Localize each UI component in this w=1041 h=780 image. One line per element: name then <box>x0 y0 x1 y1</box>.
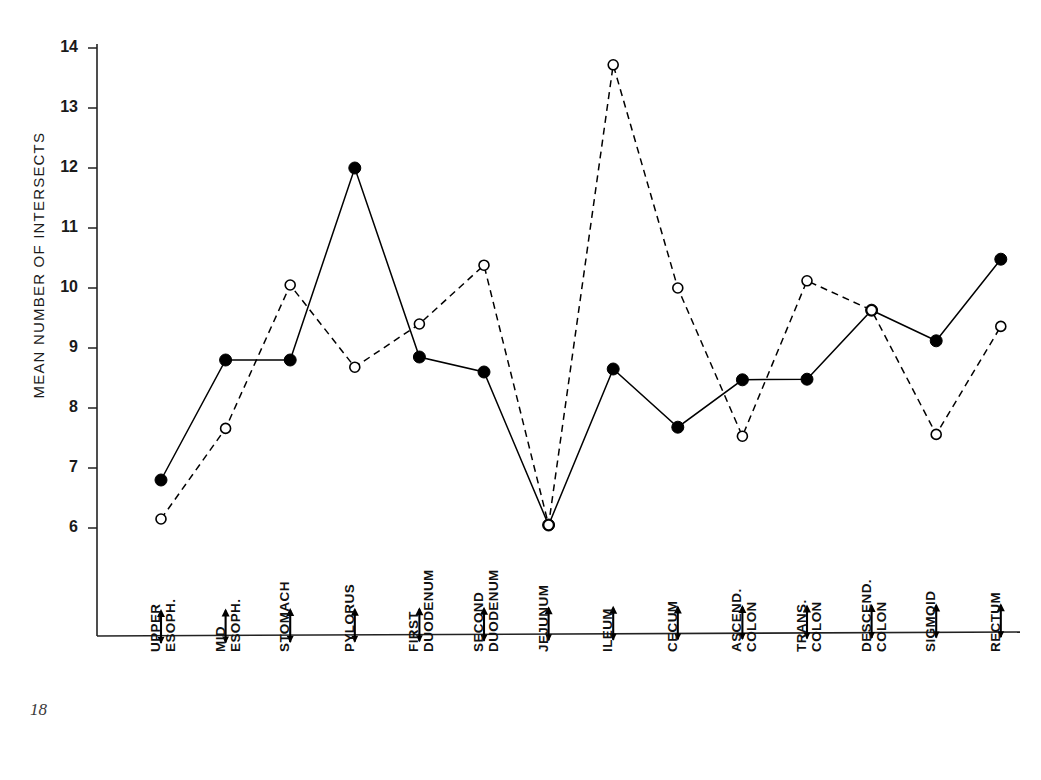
x-label-line-2: DUODENUM <box>486 569 501 652</box>
data-point-marker <box>736 374 748 386</box>
x-axis-category-label: RECTUM <box>988 592 1003 652</box>
y-axis-tick-label: 14 <box>38 38 78 56</box>
x-label-line-2: COLON <box>874 579 889 652</box>
x-label-line-1: SECOND <box>471 592 486 652</box>
y-axis-tick-label: 9 <box>38 338 78 356</box>
data-point-marker <box>995 253 1007 265</box>
y-axis-tick-label: 7 <box>38 458 78 476</box>
x-label-line-2: DUODENUM <box>421 569 436 652</box>
x-label-line-1: PYLORUS <box>342 584 357 652</box>
x-label-line-1: ILEUM <box>600 608 615 652</box>
chart-canvas <box>0 0 1041 780</box>
x-axis-category-label: DESCEND.COLON <box>859 579 889 652</box>
x-label-line-1: MID <box>213 626 228 652</box>
x-axis-category-label: TRANS.COLON <box>794 599 824 652</box>
y-axis-tick-label: 10 <box>38 278 78 296</box>
x-label-line-1: STOMACH <box>277 581 292 652</box>
series-line-open-dashed <box>161 65 1001 525</box>
data-point-marker <box>673 283 683 293</box>
data-point-marker <box>930 335 942 347</box>
data-point-marker <box>607 363 619 375</box>
x-label-line-2: ESOPH. <box>228 599 243 652</box>
x-axis-category-label: ASCEND.COLON <box>729 588 759 652</box>
x-axis-category-label: ILEUM <box>600 608 615 652</box>
series-lines <box>161 65 1001 525</box>
x-axis-category-label: STOMACH <box>277 581 292 652</box>
data-point-marker <box>931 429 941 439</box>
data-point-marker <box>220 354 232 366</box>
x-label-line-2: COLON <box>809 599 824 652</box>
data-point-marker <box>478 366 490 378</box>
y-axis-ticks <box>88 48 97 528</box>
data-point-marker <box>867 305 877 315</box>
data-point-marker <box>284 354 296 366</box>
x-label-line-1: DESCEND. <box>859 579 874 652</box>
x-axis-category-label: PYLORUS <box>342 584 357 652</box>
data-point-marker <box>737 431 747 441</box>
data-point-marker <box>221 423 231 433</box>
x-label-line-1: TRANS. <box>794 599 809 652</box>
x-label-line-1: FIRST <box>406 611 421 652</box>
x-axis-category-label: MIDESOPH. <box>213 599 243 652</box>
x-label-line-1: RECTUM <box>988 592 1003 652</box>
data-point-marker <box>285 280 295 290</box>
series-line-filled-solid <box>161 168 1001 525</box>
y-axis-tick-label: 6 <box>38 518 78 536</box>
x-label-line-1: CECUM <box>665 601 680 653</box>
x-label-line-2: ESOPH. <box>163 599 178 652</box>
axes <box>88 44 1020 644</box>
data-point-marker <box>544 520 554 530</box>
x-axis-category-label: SECONDDUODENUM <box>471 569 501 652</box>
x-label-line-1: UPPER <box>148 603 163 652</box>
data-point-marker <box>672 421 684 433</box>
data-point-marker <box>414 319 424 329</box>
data-point-marker <box>155 474 167 486</box>
data-point-marker <box>350 362 360 372</box>
data-point-marker <box>608 60 618 70</box>
page-number: 18 <box>30 700 47 720</box>
x-label-line-1: SIGMOID <box>923 591 938 652</box>
x-axis-category-label: JEJUNUM <box>536 585 551 652</box>
data-point-marker <box>156 514 166 524</box>
figure-panel: MEAN NUMBER OF INTERSECTS 67891011121314… <box>0 0 1041 780</box>
data-point-marker <box>413 351 425 363</box>
data-point-marker <box>996 321 1006 331</box>
x-label-line-1: JEJUNUM <box>536 585 551 652</box>
y-axis-tick-label: 13 <box>38 98 78 116</box>
x-axis-category-label: SIGMOID <box>923 591 938 652</box>
data-point-marker <box>479 260 489 270</box>
x-axis-category-label: FIRSTDUODENUM <box>406 569 436 652</box>
data-point-marker <box>802 276 812 286</box>
data-point-marker <box>801 373 813 385</box>
y-axis-tick-label: 8 <box>38 398 78 416</box>
x-label-line-2: COLON <box>744 588 759 652</box>
y-axis-tick-label: 12 <box>38 158 78 176</box>
x-axis-category-label: CECUM <box>665 601 680 653</box>
data-point-marker <box>349 162 361 174</box>
x-axis-category-label: UPPERESOPH. <box>148 599 178 652</box>
y-axis-tick-label: 11 <box>38 218 78 236</box>
x-label-line-1: ASCEND. <box>729 588 744 652</box>
